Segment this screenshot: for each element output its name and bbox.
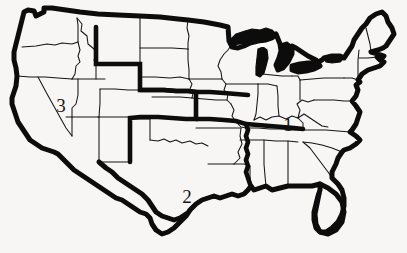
state-line-nd-sd — [140, 48, 188, 49]
state-line-nd-mn — [187, 20, 189, 49]
lake-michigan — [256, 47, 268, 77]
great-lakes-group — [229, 28, 344, 77]
state-line-ar-ms — [234, 128, 242, 164]
state-line-pa-md — [314, 100, 352, 101]
region-divider-west-mountain — [96, 27, 196, 162]
state-line-nv-ca — [38, 77, 72, 136]
region-label-3: 3 — [56, 95, 66, 116]
state-line-ne-ks — [152, 97, 192, 98]
state-line-vt-nh — [366, 28, 371, 52]
state-boundaries-group — [17, 16, 383, 186]
state-line-wa-id — [77, 18, 78, 42]
region-divider-group — [96, 27, 303, 184]
state-line-ok-tx-redriver — [150, 139, 208, 146]
region-label-1: 1 — [283, 114, 293, 135]
state-line-in-il-north — [258, 84, 277, 86]
us-map-svg: 1 2 3 — [0, 0, 407, 253]
state-line-mi-in-oh — [262, 74, 292, 76]
state-line-id-mt — [77, 18, 96, 64]
state-line-ok-panhandle — [130, 119, 150, 140]
region-label-2: 2 — [182, 186, 192, 207]
state-line-mn-wi — [218, 44, 232, 79]
state-line-ms-al — [264, 140, 266, 186]
state-line-sd-mn — [188, 49, 189, 79]
state-line-pa-ny — [300, 78, 344, 80]
state-line-in-oh — [277, 86, 279, 116]
state-line-nc-va — [303, 130, 350, 132]
state-line-sd-ne — [140, 77, 189, 79]
us-region-map-figure: 1 2 3 — [0, 0, 407, 253]
state-line-ga-sc — [303, 142, 332, 178]
state-line-or-id — [72, 42, 80, 79]
state-line-or-ca-nv — [17, 76, 72, 79]
state-line-il-in — [254, 84, 258, 120]
state-line-nv-ut — [72, 79, 78, 117]
state-line-ne-ia — [189, 79, 193, 98]
region-divider-midwest-south — [196, 119, 250, 184]
state-line-wy-co — [100, 89, 140, 90]
state-line-oh-mi — [292, 76, 300, 80]
state-line-ut-co — [99, 89, 100, 117]
state-line-wa-or — [22, 42, 78, 47]
